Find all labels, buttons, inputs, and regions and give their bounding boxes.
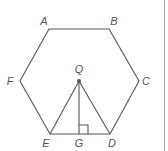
right-border-line [164, 0, 165, 151]
label-A: A [39, 15, 47, 27]
segment-QE [50, 81, 79, 134]
label-G: G [75, 137, 84, 149]
label-E: E [42, 137, 50, 149]
hexagon-diagram: A B C D E F Q G [0, 0, 168, 151]
label-Q: Q [75, 63, 84, 75]
label-F: F [7, 75, 15, 87]
label-C: C [142, 75, 150, 87]
center-point-Q [77, 79, 81, 83]
segment-QD [79, 81, 110, 134]
label-D: D [108, 137, 116, 149]
right-angle-marker [79, 125, 88, 134]
label-B: B [110, 15, 117, 27]
